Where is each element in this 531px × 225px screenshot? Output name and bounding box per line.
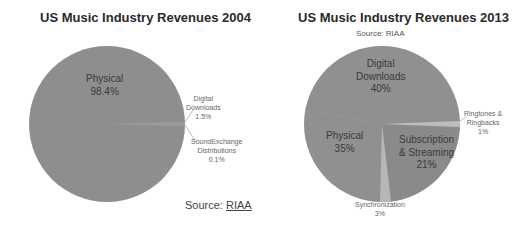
label-text: Downloads	[356, 71, 405, 84]
label-synchronization-2013: Synchronization 3%	[355, 201, 405, 219]
label-text: Synchronization	[355, 201, 405, 210]
label-text: & Streaming	[399, 147, 454, 160]
label-ringtones-2013: Ringtones & Ringbacks 1%	[464, 110, 502, 136]
label-text: Physical	[86, 73, 123, 86]
label-text: Ringtones &	[464, 110, 502, 119]
source-prefix: Source:	[185, 199, 226, 211]
label-text: Digital	[356, 58, 405, 71]
label-text: Downloads	[186, 104, 221, 113]
label-digital-downloads-2004: Digital Downloads 1.5%	[186, 95, 221, 121]
label-value: 0.1%	[191, 156, 242, 165]
label-value: 3%	[355, 210, 405, 219]
label-value: 98.4%	[86, 86, 123, 99]
label-value: 35%	[326, 143, 363, 156]
label-value: 40%	[356, 83, 405, 96]
label-text: SoundExchange	[191, 138, 242, 147]
label-text: Subscription	[399, 134, 454, 147]
label-text: Digital	[186, 95, 221, 104]
label-physical-2013: Physical 35%	[326, 130, 363, 155]
label-soundexchange-2004: SoundExchange Distributions 0.1%	[191, 138, 242, 164]
left-pie	[29, 46, 196, 202]
label-value: 1%	[464, 128, 502, 137]
label-subscription-streaming-2013: Subscription & Streaming 21%	[399, 134, 454, 172]
label-text: Physical	[326, 130, 363, 143]
label-text: Ringbacks	[464, 119, 502, 128]
label-value: 1.5%	[186, 113, 221, 122]
pie-charts-graphic	[0, 0, 531, 225]
label-text: Distributions	[191, 147, 242, 156]
source-note: Source: RIAA	[185, 199, 252, 211]
label-digital-downloads-2013: Digital Downloads 40%	[356, 58, 405, 96]
label-value: 21%	[399, 159, 454, 172]
source-link-riaa[interactable]: RIAA	[226, 199, 252, 211]
label-physical-2004: Physical 98.4%	[86, 73, 123, 98]
